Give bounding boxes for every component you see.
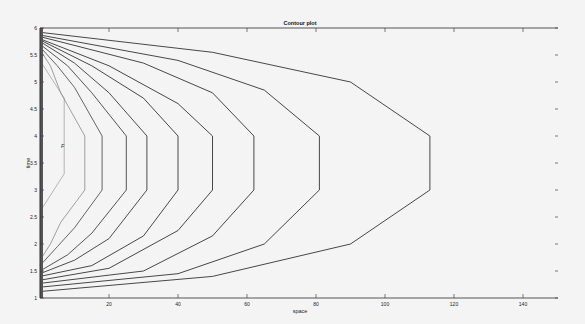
x-tick-label: 60: [244, 301, 250, 307]
y-tick-label: 4.5: [30, 106, 37, 112]
y-tick-label: 2.5: [30, 214, 37, 220]
x-tick-label: 20: [106, 301, 112, 307]
y-tick-label: 3.5: [30, 160, 37, 166]
y-tick-label: 1: [34, 295, 37, 301]
x-tick-label: 80: [313, 301, 319, 307]
x-tick-label: 120: [450, 301, 459, 307]
y-tick-label: 2: [34, 241, 37, 247]
x-tick-label: 100: [381, 301, 390, 307]
y-axis-label: time: [25, 158, 31, 168]
y-tick-label: 5.5: [30, 52, 37, 58]
y-tick-label: 5: [34, 79, 37, 85]
x-tick-label: 40: [175, 301, 181, 307]
x-tick-label: 140: [519, 301, 528, 307]
chart-title: Contour plot: [284, 20, 317, 26]
y-tick-label: 1.5: [30, 268, 37, 274]
y-tick-label: 6: [34, 25, 37, 31]
y-tick-label: 3: [34, 187, 37, 193]
x-axis-label: space: [293, 308, 308, 314]
contour-figure: 2040608010012014011.522.533.544.555.56F …: [0, 0, 585, 324]
y-tick-label: 4: [34, 133, 37, 139]
